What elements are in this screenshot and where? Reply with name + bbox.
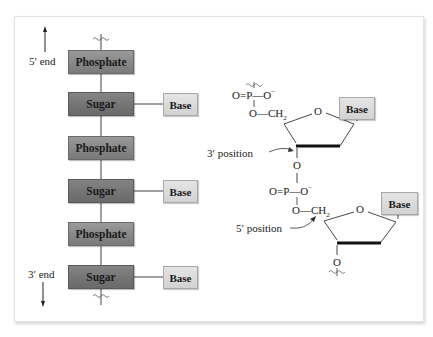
phosphate-box: Phosphate — [68, 222, 134, 246]
base-box: Base — [381, 192, 418, 215]
base-label: Base — [389, 198, 411, 210]
phosphate-group-2: O=P—O− — [269, 184, 312, 197]
three-prime-oxygen: O — [293, 159, 301, 171]
phosphate-group-1: O=P—O− — [232, 88, 275, 101]
sugar-label: Sugar — [86, 271, 115, 283]
linker-o-ch2-2: O—CH2 — [292, 204, 330, 219]
sugar-box: Sugar — [68, 179, 134, 203]
phosphate-box: Phosphate — [68, 136, 134, 160]
linker-o-ch2-1: O—CH2 — [249, 107, 287, 122]
sugar-label: Sugar — [86, 185, 115, 197]
phosphate-label: Phosphate — [75, 228, 126, 240]
phosphate-label: Phosphate — [75, 142, 126, 154]
three-prime-end-label: 3′ end — [28, 268, 55, 280]
base-label: Base — [170, 186, 192, 198]
sugar-box: Sugar — [68, 265, 134, 289]
base-box: Base — [163, 180, 198, 203]
ring-oxygen-2: O — [356, 203, 364, 215]
base-box: Base — [163, 93, 198, 116]
sugar-label: Sugar — [86, 98, 115, 110]
sugar-box: Sugar — [68, 92, 134, 116]
base-box: Base — [163, 266, 198, 289]
five-prime-position-label: 5′ position — [236, 222, 282, 234]
phosphate-label: Phosphate — [75, 56, 126, 68]
phosphate-box: Phosphate — [68, 50, 134, 74]
five-prime-end-label: 5′ end — [29, 55, 56, 67]
base-box: Base — [339, 97, 375, 120]
three-prime-position-label: 3′ position — [207, 147, 253, 159]
base-label: Base — [170, 99, 192, 111]
ring-oxygen-1: O — [314, 105, 322, 117]
base-label: Base — [170, 272, 192, 284]
base-label: Base — [346, 103, 368, 115]
three-prime-oxygen-2: O — [333, 256, 341, 268]
